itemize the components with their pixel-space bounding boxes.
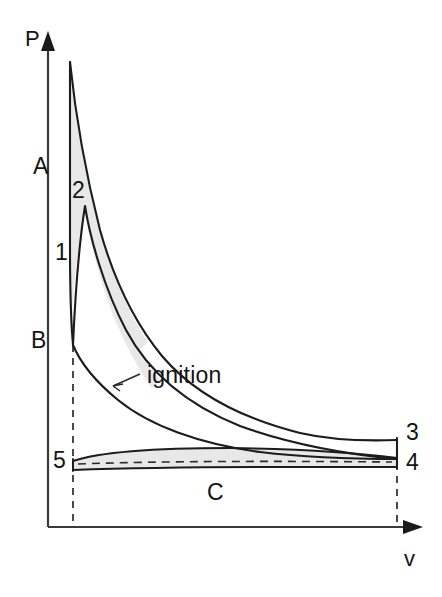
state-3-label: 3: [406, 421, 419, 444]
region-a-label: A: [33, 155, 48, 178]
v-axis-label: v: [404, 548, 415, 570]
ignition-leader-tick: [113, 384, 123, 391]
state-5-label: 5: [53, 449, 66, 472]
p-axis-arrowhead: [41, 31, 55, 51]
region-b-label: B: [31, 329, 46, 352]
state-2-label: 2: [72, 179, 85, 202]
region-c-label: C: [207, 481, 224, 504]
v-axis-arrowhead: [403, 520, 423, 534]
ignition-label: ignition: [147, 364, 222, 387]
p-axis-label: P: [25, 28, 40, 50]
state-4-label: 4: [406, 451, 419, 474]
pv-diagram-canvas: [0, 0, 442, 597]
ignition-branch-curve: [73, 345, 397, 459]
ignition-leader-line: [113, 374, 140, 386]
state-1-label: 1: [55, 241, 68, 264]
pv-diagram-figure: P v A B C 1 2 3 4 5 ignition: [0, 0, 442, 597]
region-a-shading: [70, 62, 148, 352]
